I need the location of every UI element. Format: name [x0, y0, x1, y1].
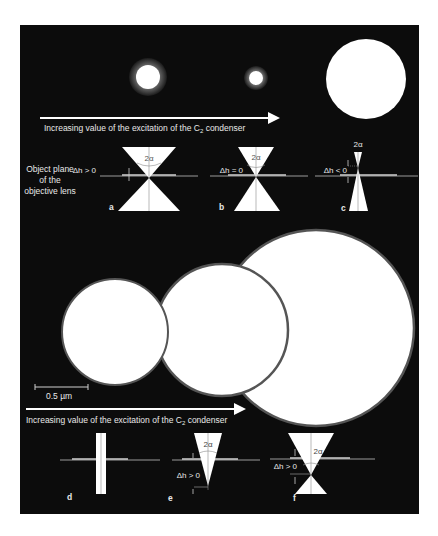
svg-text:Δh > 0: Δh > 0	[274, 462, 298, 471]
svg-text:b: b	[219, 202, 224, 212]
svg-text:Object plane: Object plane	[26, 164, 74, 174]
svg-text:f: f	[293, 493, 296, 503]
beam-spot-a	[136, 65, 160, 89]
svg-text:of the: of the	[39, 175, 61, 185]
svg-text:e: e	[168, 493, 173, 503]
svg-text:objective lens: objective lens	[24, 186, 76, 196]
svg-text:2α: 2α	[203, 440, 212, 449]
svg-text:Δh < 0: Δh < 0	[324, 166, 348, 175]
svg-text:2α: 2α	[251, 153, 260, 162]
top-arrow-label: Increasing value of the excitation of th…	[44, 123, 246, 134]
svg-text:c: c	[341, 203, 346, 213]
svg-text:Δh > 0: Δh > 0	[73, 166, 97, 175]
svg-text:Δh > 0: Δh > 0	[177, 471, 201, 480]
svg-text:2α: 2α	[313, 447, 322, 456]
beam-image-e	[156, 264, 288, 396]
svg-text:0.5 µm: 0.5 µm	[46, 391, 72, 401]
svg-text:2α: 2α	[144, 154, 153, 163]
svg-text:a: a	[109, 202, 114, 212]
svg-text:Δh = 0: Δh = 0	[220, 166, 244, 175]
svg-text:d: d	[67, 492, 72, 502]
svg-text:2α: 2α	[353, 140, 362, 149]
beam-spot-c	[326, 39, 406, 119]
beam-spot-b	[249, 71, 263, 85]
bottom-arrow-label: Increasing value of the excitation of th…	[26, 415, 228, 426]
condenser-focus-figure: Increasing value of the excitation of th…	[0, 0, 438, 536]
beam-image-d	[62, 279, 168, 385]
